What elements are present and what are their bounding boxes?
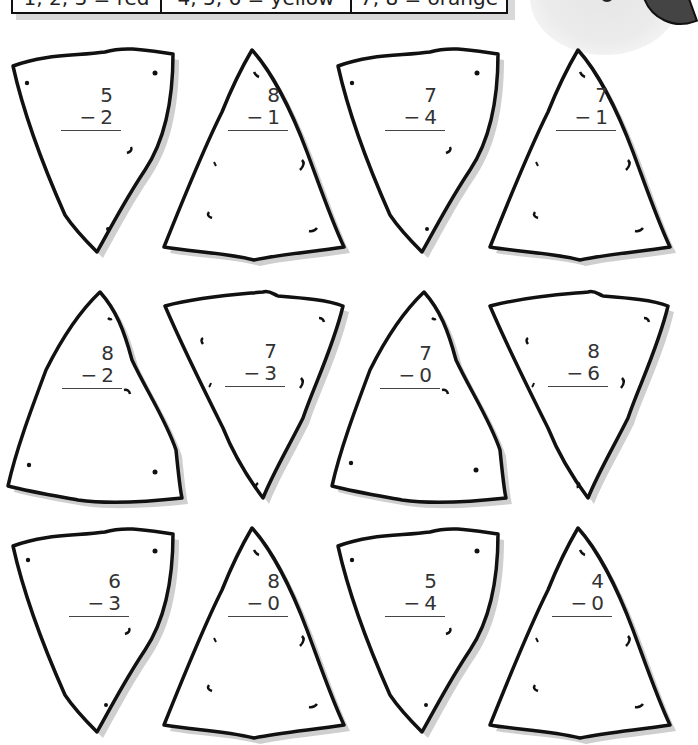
problem-8: 8 −6 (548, 340, 608, 387)
subtrahend-row: −0 (228, 592, 288, 617)
minus-sign: − (81, 363, 98, 387)
minuend: 5 (61, 84, 121, 106)
pizza-slice-8: 8 −6 (488, 288, 668, 513)
minuend: 7 (225, 340, 285, 362)
minus-sign: − (80, 105, 97, 129)
subtrahend: 2 (100, 105, 113, 129)
minus-sign: − (88, 591, 105, 615)
color-key-red-label: 1, 2, 3 = red (24, 0, 150, 8)
subtrahend-row: −2 (62, 364, 122, 389)
minuend: 7 (385, 84, 445, 106)
minuend: 8 (228, 84, 288, 106)
color-key-yellow: 4, 5, 6 = yellow (162, 0, 352, 12)
subtrahend-row: −0 (552, 592, 612, 617)
subtrahend-row: −4 (385, 106, 445, 131)
problem-12: 4 −0 (552, 570, 612, 617)
problem-11: 5 −4 (385, 570, 445, 617)
minus-sign: − (571, 591, 588, 615)
problem-10: 8 −0 (228, 570, 288, 617)
minuend: 8 (62, 342, 122, 364)
pizza-slice-3: 7 −4 (330, 40, 510, 265)
minuend: 4 (552, 570, 612, 592)
minus-sign: − (244, 361, 261, 385)
subtrahend-row: −1 (228, 106, 288, 131)
subtrahend: 3 (108, 591, 121, 615)
color-key-red: 1, 2, 3 = red (13, 0, 162, 12)
problem-5: 8 −2 (62, 342, 122, 389)
minus-sign: − (404, 591, 421, 615)
subtrahend: 3 (264, 361, 277, 385)
minuend: 6 (69, 570, 129, 592)
subtrahend: 4 (424, 591, 437, 615)
pizza-slice-7: 7 −0 (330, 290, 510, 515)
minus-sign: − (247, 105, 264, 129)
minuend: 8 (548, 340, 608, 362)
minus-sign: − (399, 363, 416, 387)
color-key-yellow-label: 4, 5, 6 = yellow (178, 0, 335, 8)
minuend: 5 (385, 570, 445, 592)
subtrahend-row: −2 (61, 106, 121, 131)
subtrahend-row: −3 (225, 362, 285, 387)
pizza-slice-11: 5 −4 (330, 520, 510, 745)
problem-9: 6 −3 (69, 570, 129, 617)
minuend: 7 (380, 342, 440, 364)
subtrahend: 6 (587, 361, 600, 385)
subtrahend: 2 (101, 363, 114, 387)
pizza-slice-6: 7 −3 (163, 288, 343, 513)
pizza-slice-10: 8 −0 (162, 520, 342, 745)
minus-sign: − (247, 591, 264, 615)
subtrahend: 0 (591, 591, 604, 615)
problem-1: 5 −2 (61, 84, 121, 131)
minuend: 7 (556, 84, 616, 106)
subtrahend-row: −6 (548, 362, 608, 387)
problem-4: 7 −1 (556, 84, 616, 131)
subtrahend-row: −4 (385, 592, 445, 617)
subtrahend: 1 (267, 105, 280, 129)
subtrahend-row: −0 (380, 364, 440, 389)
pizza-slice-5: 8 −2 (6, 290, 186, 515)
minus-sign: − (575, 105, 592, 129)
subtrahend: 0 (267, 591, 280, 615)
subtrahend-row: −3 (69, 592, 129, 617)
problem-3: 7 −4 (385, 84, 445, 131)
pizza-slice-2: 8 −1 (162, 42, 342, 267)
subtrahend: 4 (424, 105, 437, 129)
minuend: 8 (228, 570, 288, 592)
pizza-slice-1: 5 −2 (5, 40, 185, 265)
pizza-slice-12: 4 −0 (488, 520, 668, 745)
subtrahend-row: −1 (556, 106, 616, 131)
color-key-orange-label: 7, 8 = orange (360, 0, 498, 8)
problem-2: 8 −1 (228, 84, 288, 131)
subtrahend: 0 (419, 363, 432, 387)
problem-7: 7 −0 (380, 342, 440, 389)
color-key-orange: 7, 8 = orange (352, 0, 506, 12)
pizza-slice-4: 7 −1 (488, 42, 668, 267)
minus-sign: − (404, 105, 421, 129)
pizza-slice-9: 6 −3 (5, 520, 185, 745)
color-key-table: 1, 2, 3 = red 4, 5, 6 = yellow 7, 8 = or… (11, 0, 508, 14)
subtrahend: 1 (595, 105, 608, 129)
problem-6: 7 −3 (225, 340, 285, 387)
minus-sign: − (567, 361, 584, 385)
